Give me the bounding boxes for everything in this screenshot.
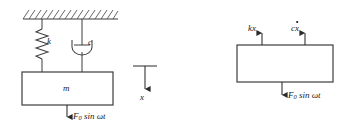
mechanics-figure: k c m x F0 sin ωt kx cx F0 sin ωt (0, 0, 349, 132)
ceiling-hatching (23, 10, 118, 19)
left-system-group (22, 10, 157, 117)
damping-coefficient-label: c (88, 38, 92, 47)
force-sine-term: sin ωt (82, 111, 106, 121)
spring-force-label: kx (248, 24, 256, 33)
x-dot-symbol: x (295, 24, 299, 33)
spring-stiffness-label: k (47, 37, 51, 46)
displacement-label: x (140, 93, 144, 102)
mass-label: m (63, 84, 70, 93)
velocity-variable: x (295, 23, 299, 33)
damping-force-label: cx (291, 24, 299, 33)
force-sine-term: sin ωt (297, 90, 321, 100)
mass-block-right (237, 45, 333, 82)
figure-vector-canvas (0, 0, 349, 132)
right-fbd-group (237, 33, 333, 95)
time-derivative-dot-icon (296, 21, 298, 23)
applied-force-label-right: F0 sin ωt (288, 91, 321, 101)
applied-force-label-left: F0 sin ωt (73, 112, 106, 122)
